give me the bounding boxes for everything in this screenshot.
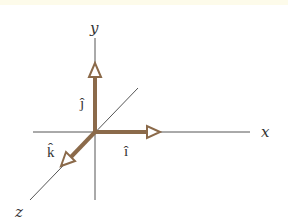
- k-hat-vector-shaft: [70, 132, 95, 158]
- z-axis-label: z: [14, 203, 23, 221]
- y-axis-label: y: [89, 19, 99, 37]
- k-hat-label: k̂: [47, 143, 55, 160]
- j-hat-arrowhead-icon: [89, 63, 101, 77]
- unit-vectors: [61, 63, 160, 166]
- axes: [30, 38, 250, 200]
- i-hat-arrowhead-icon: [147, 126, 160, 138]
- j-hat-label: ĵ: [79, 95, 85, 111]
- x-axis-label: x: [261, 123, 270, 141]
- coordinate-diagram: y x z ĵ î k̂: [0, 0, 288, 221]
- i-hat-label: î: [123, 143, 129, 159]
